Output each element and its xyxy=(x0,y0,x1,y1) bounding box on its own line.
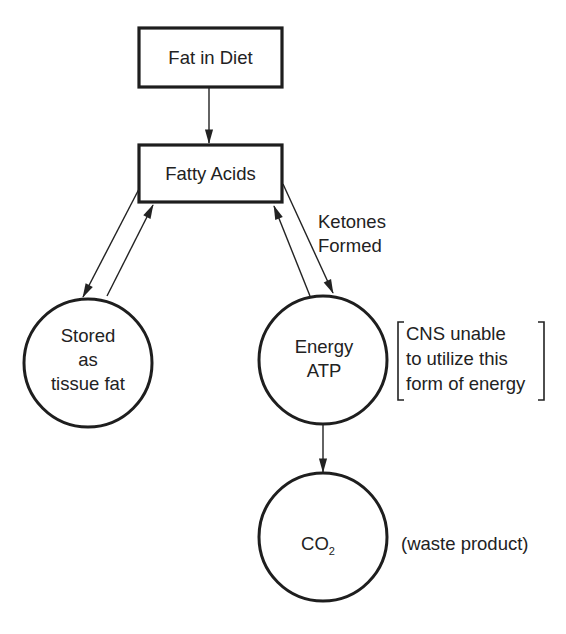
co2-main: CO xyxy=(301,533,329,554)
cns-note-line3: form of energy xyxy=(406,373,526,394)
fat-metabolism-diagram: Fat in Diet Fatty Acids Ketones Formed S… xyxy=(0,0,566,634)
node-energy-atp: Energy ATP xyxy=(259,296,387,424)
fatty-acids-label: Fatty Acids xyxy=(165,163,255,184)
energy-label-line2: ATP xyxy=(307,360,342,381)
waste-product-annotation: (waste product) xyxy=(401,533,529,554)
stored-label-line3: tissue fat xyxy=(51,373,125,394)
node-co2: CO2 xyxy=(259,473,387,601)
right-bracket xyxy=(538,322,544,400)
arrow-fatty-acids-to-stored xyxy=(83,189,139,297)
arrow-energy-to-fatty-acids xyxy=(274,206,310,296)
cns-note-line1: CNS unable xyxy=(406,323,506,344)
stored-label-line2: as xyxy=(78,349,98,370)
fat-in-diet-label: Fat in Diet xyxy=(168,47,252,68)
co2-subscript: 2 xyxy=(329,545,335,557)
node-stored-tissue-fat: Stored as tissue fat xyxy=(24,299,152,427)
ketones-label-line1: Ketones xyxy=(318,211,386,232)
node-fat-in-diet: Fat in Diet xyxy=(139,28,282,87)
node-fatty-acids: Fatty Acids xyxy=(139,145,282,202)
cns-note-line2: to utilize this xyxy=(406,348,508,369)
cns-note-annotation: CNS unable to utilize this form of energ… xyxy=(398,322,544,400)
energy-label-line1: Energy xyxy=(295,336,354,357)
arrow-stored-to-fatty-acids xyxy=(107,205,153,296)
ketones-formed-annotation: Ketones Formed xyxy=(318,211,386,256)
left-bracket xyxy=(398,322,404,400)
ketones-label-line2: Formed xyxy=(318,235,382,256)
stored-label-line1: Stored xyxy=(61,325,116,346)
